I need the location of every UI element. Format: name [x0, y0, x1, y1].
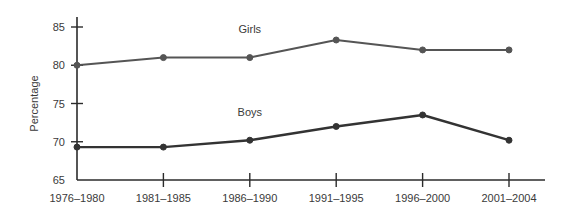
data-point-boys-4: [420, 112, 426, 118]
data-point-girls-3: [333, 37, 339, 43]
data-point-girls-2: [247, 55, 253, 61]
x-axis-tick-label: 1991–1995: [309, 192, 364, 204]
data-point-girls-1: [160, 55, 166, 61]
data-point-boys-1: [160, 144, 166, 150]
series-label-boys: Boys: [238, 106, 263, 118]
x-axis-tick-label: 1981–1985: [136, 192, 191, 204]
data-point-boys-5: [506, 137, 512, 143]
x-axis-tick-label: 2001–2004: [481, 192, 536, 204]
y-axis-title: Percentage: [28, 75, 40, 131]
line-chart: 65707580851976–19801981–19851986–1990199…: [0, 0, 566, 222]
data-point-boys-2: [247, 137, 253, 143]
data-point-boys-3: [333, 123, 339, 129]
data-point-boys-0: [74, 144, 80, 150]
x-axis-tick-label: 1996–2000: [395, 192, 450, 204]
data-point-girls-4: [420, 47, 426, 53]
y-axis-tick-label: 75: [53, 98, 65, 110]
x-axis-tick-label: 1986–1990: [222, 192, 277, 204]
data-point-girls-0: [74, 62, 80, 68]
y-axis-tick-label: 65: [53, 174, 65, 186]
y-axis-tick-label: 80: [53, 59, 65, 71]
series-line-boys: [77, 115, 509, 147]
chart-container: 65707580851976–19801981–19851986–1990199…: [0, 0, 566, 222]
y-axis-tick-label: 85: [53, 21, 65, 33]
x-axis-tick-label: 1976–1980: [49, 192, 104, 204]
series-label-girls: Girls: [238, 23, 261, 35]
y-axis-tick-label: 70: [53, 136, 65, 148]
data-point-girls-5: [506, 47, 512, 53]
series-line-girls: [77, 40, 509, 65]
